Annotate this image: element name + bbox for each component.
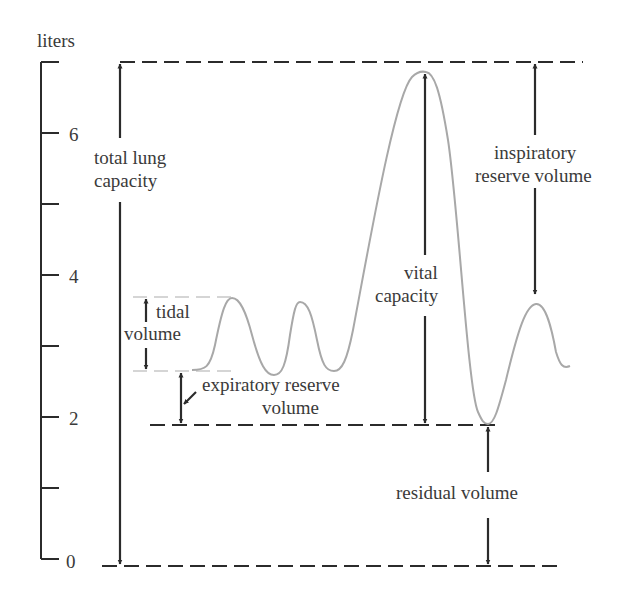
spirometry-curve — [192, 72, 570, 424]
lung-volumes-diagram — [0, 0, 636, 599]
expiratory-reserve-label-2: volume — [262, 397, 319, 419]
tick-label-2: 2 — [69, 409, 79, 429]
residual-volume-label: residual volume — [396, 482, 518, 504]
y-axis — [41, 62, 59, 559]
tick-label-0: 0 — [66, 552, 76, 572]
vital-capacity-label-1: vital — [404, 262, 438, 284]
tidal-volume-label-2: volume — [124, 323, 181, 345]
erv-leader-arrow — [184, 392, 196, 404]
total-lung-capacity-label-2: capacity — [94, 170, 157, 192]
tick-label-4: 4 — [69, 267, 79, 287]
vital-capacity-label-2: capacity — [375, 285, 438, 307]
tidal-volume-label-1: tidal — [156, 301, 190, 323]
total-lung-capacity-label-1: total lung — [94, 147, 166, 169]
tick-label-6: 6 — [69, 125, 79, 145]
inspiratory-reserve-label-1: inspiratory — [494, 142, 576, 164]
axis-unit-label: liters — [37, 30, 75, 52]
expiratory-reserve-label-1: expiratory reserve — [202, 374, 340, 396]
inspiratory-reserve-label-2: reserve volume — [475, 165, 592, 187]
